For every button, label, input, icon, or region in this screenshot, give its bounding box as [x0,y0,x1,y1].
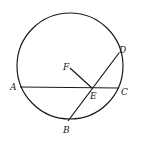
label-D: D [118,45,126,55]
label-E: E [89,91,97,101]
circle-diagram: A B C D E F [0,0,143,146]
label-B: B [62,125,70,135]
label-C: C [121,87,128,97]
circle [17,13,123,119]
label-A: A [9,82,17,92]
label-F: F [62,62,70,72]
segment-FE [70,68,92,88]
chord-AC [20,87,119,88]
